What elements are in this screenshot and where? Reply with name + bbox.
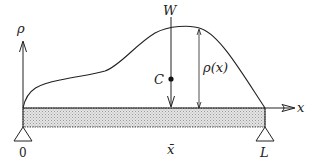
centroid-position-label: x̄ — [167, 142, 175, 157]
origin-label: 0 — [19, 146, 27, 160]
length-label: L — [259, 145, 269, 160]
weight-label: W — [163, 3, 178, 18]
rho-axis-label: ρ — [16, 21, 25, 36]
density-function-label: ρ(x) — [202, 60, 228, 75]
centroid-label: C — [154, 72, 164, 87]
beam-diagram: ρ x W C ρ(x) 0 x̄ L — [0, 0, 316, 163]
x-axis-label: x — [297, 100, 305, 115]
density-curve — [23, 26, 265, 108]
centroid-point — [168, 76, 173, 81]
left-support-icon — [14, 127, 32, 141]
right-support-icon — [256, 127, 274, 141]
beam — [23, 108, 265, 127]
